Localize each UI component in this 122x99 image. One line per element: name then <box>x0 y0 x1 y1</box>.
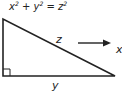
base-label: y <box>52 80 59 91</box>
right-triangle <box>3 19 115 76</box>
equation-equals: = <box>43 1 58 12</box>
arrow-right-icon <box>103 40 111 47</box>
equation-exp-z: 2 <box>63 0 67 7</box>
pythagorean-equation: x2 + y2 = z2 <box>9 1 67 12</box>
right-angle-marker <box>3 69 10 76</box>
triangle-figure <box>0 0 122 99</box>
arrow-target-label: x <box>116 44 122 55</box>
equation-plus: + <box>19 1 34 12</box>
hypotenuse-label: z <box>56 34 62 45</box>
